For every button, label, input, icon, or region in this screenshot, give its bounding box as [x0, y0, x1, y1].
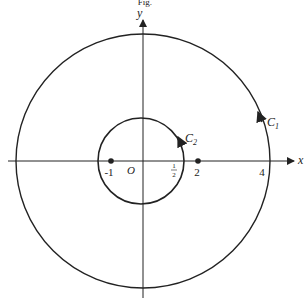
c2-label: C2 — [185, 131, 197, 147]
tick-label-half: 1 2 — [171, 162, 177, 179]
point-two-label: 2 — [194, 166, 200, 178]
point-minus-one-label: -1 — [104, 166, 113, 178]
c1-label: C1 — [267, 115, 279, 131]
svg-text:1: 1 — [172, 162, 176, 170]
svg-text:2: 2 — [172, 171, 176, 179]
tick-label-four: 4 — [259, 166, 265, 178]
x-axis-label: x — [297, 153, 304, 167]
y-axis-label: y — [136, 6, 143, 20]
contour-diagram: Fig. x y C1 C2 O -1 2 1 2 4 — [0, 0, 308, 301]
point-minus-one — [108, 158, 114, 164]
origin-label: O — [127, 164, 135, 176]
point-two — [195, 158, 201, 164]
